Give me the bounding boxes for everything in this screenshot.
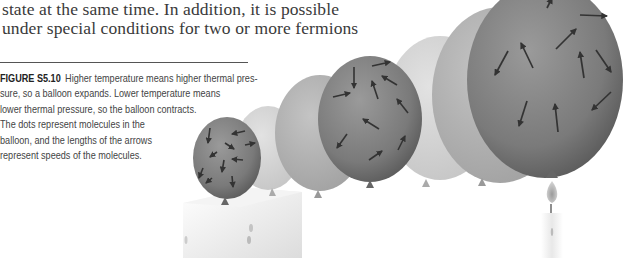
balloon-illustration (0, 0, 630, 258)
ice-block (183, 188, 302, 258)
candle-flame (547, 181, 558, 203)
candle (541, 181, 563, 258)
